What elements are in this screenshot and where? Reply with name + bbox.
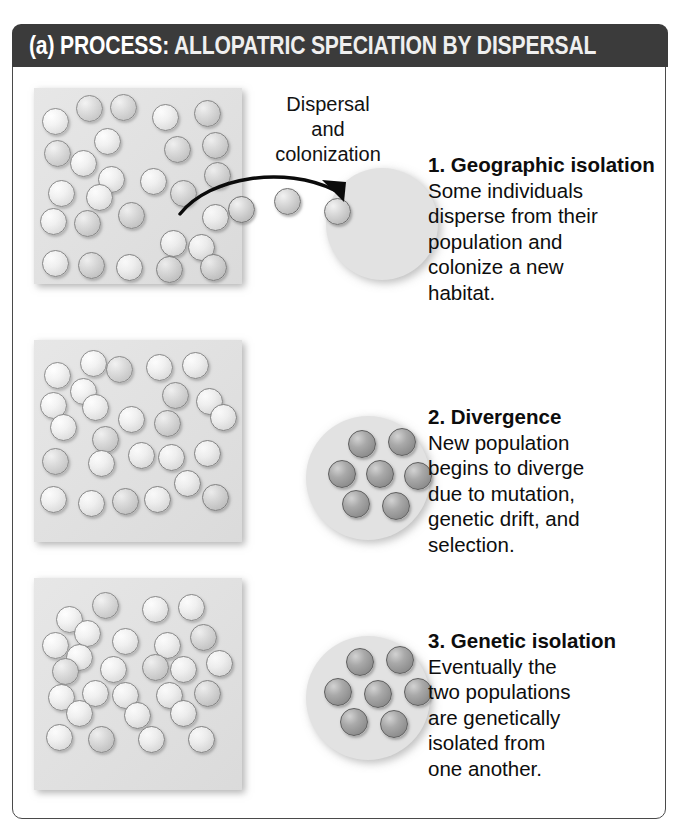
organism-dot (324, 678, 352, 706)
organism-dot (106, 356, 133, 383)
panel-label: (a) (29, 31, 54, 59)
organism-dot (164, 136, 191, 163)
organism-dot (42, 108, 69, 135)
step-1-body: Some individuals disperse from their pop… (428, 178, 658, 306)
header-keyword: PROCESS: (60, 31, 169, 59)
organism-dot (182, 352, 209, 379)
dispersal-label-line-2: and (248, 117, 408, 142)
organism-dot (386, 646, 414, 674)
organism-dot (346, 648, 374, 676)
organism-dot (52, 658, 79, 685)
figure-header-bar: (a) PROCESS: ALLOPATRIC SPECIATION BY DI… (12, 24, 668, 67)
organism-dot (146, 354, 173, 381)
mainland-population-stage-3 (34, 578, 242, 790)
organism-dot (78, 490, 105, 517)
header-title: ALLOPATRIC SPECIATION BY DISPERSAL (174, 31, 596, 59)
step-1-text: 1. Geographic isolation Some individuals… (428, 152, 658, 305)
new-habitat-isolated (306, 636, 430, 760)
organism-dot (142, 596, 169, 623)
organism-dot (200, 254, 227, 281)
organism-dot (48, 180, 75, 207)
organism-dot (94, 128, 121, 155)
organism-dot (100, 656, 127, 683)
organism-dot (42, 632, 69, 659)
organism-dot (194, 100, 221, 127)
figure-header-text: (a) PROCESS: ALLOPATRIC SPECIATION BY DI… (29, 31, 668, 60)
dispersal-label-line-3: colonization (248, 142, 408, 167)
organism-dot (138, 726, 165, 753)
organism-dot (118, 406, 145, 433)
organism-dot (50, 414, 77, 441)
step-2-text: 2. Divergence New population begins to d… (428, 404, 658, 557)
step-3-body: Eventually the two populations are genet… (428, 654, 658, 782)
step-3-text: 3. Genetic isolation Eventually the two … (428, 628, 658, 781)
figure-root: (a) PROCESS: ALLOPATRIC SPECIATION BY DI… (0, 0, 680, 832)
organism-dot (82, 394, 109, 421)
organism-dot (112, 488, 139, 515)
step-3-title: 3. Genetic isolation (428, 628, 658, 654)
organism-dot (74, 210, 101, 237)
organism-dot (152, 104, 179, 131)
step-2-title: 2. Divergence (428, 404, 658, 430)
organism-dot (144, 486, 171, 513)
organism-dot (194, 440, 221, 467)
organism-dot (202, 484, 229, 511)
organism-dot (364, 680, 392, 708)
mainland-population-stage-2 (34, 340, 242, 542)
organism-dot (112, 628, 139, 655)
organism-dot (382, 492, 410, 520)
organism-dot (44, 140, 71, 167)
organism-dot (158, 444, 185, 471)
organism-dot (88, 450, 115, 477)
organism-dot (88, 726, 115, 753)
organism-dot (366, 460, 394, 488)
organism-dot (210, 404, 237, 431)
organism-dot (92, 592, 119, 619)
organism-dot (170, 700, 197, 727)
organism-dot (188, 726, 215, 753)
organism-dot (46, 724, 73, 751)
organism-dot (118, 202, 145, 229)
organism-dot (42, 448, 69, 475)
organism-dot (348, 430, 376, 458)
organism-dot (328, 460, 356, 488)
organism-dot (80, 350, 107, 377)
organism-dot (124, 702, 151, 729)
dispersal-label-line-1: Dispersal (248, 92, 408, 117)
step-1-title: 1. Geographic isolation (428, 152, 658, 178)
organism-dot (92, 426, 119, 453)
organism-dot (388, 428, 416, 456)
organism-dot (160, 230, 187, 257)
organism-dot (206, 650, 233, 677)
dispersal-arrow-icon (176, 168, 366, 230)
organism-dot (380, 710, 408, 738)
organism-dot (44, 362, 71, 389)
organism-dot (40, 486, 67, 513)
organism-dot (128, 442, 155, 469)
organism-dot (162, 382, 189, 409)
organism-dot (140, 168, 167, 195)
dispersal-label: Dispersal and colonization (248, 92, 408, 167)
organism-dot (66, 700, 93, 727)
organism-dot (116, 254, 143, 281)
organism-dot (142, 654, 169, 681)
organism-dot (340, 708, 368, 736)
organism-dot (78, 252, 105, 279)
organism-dot (86, 184, 113, 211)
organism-dot (40, 208, 67, 235)
organism-dot (70, 150, 97, 177)
step-2-body: New population begins to diverge due to … (428, 430, 658, 558)
organism-dot (170, 656, 197, 683)
organism-dot (202, 132, 229, 159)
organism-dot (174, 470, 201, 497)
organism-dot (76, 95, 103, 122)
organism-dot (74, 620, 101, 647)
organism-dot (42, 250, 69, 277)
organism-dot (342, 490, 370, 518)
organism-dot (194, 680, 221, 707)
organism-dot (154, 410, 181, 437)
organism-dot (156, 256, 183, 283)
organism-dot (190, 624, 217, 651)
organism-dot (178, 594, 205, 621)
new-habitat-diverging (306, 416, 430, 540)
